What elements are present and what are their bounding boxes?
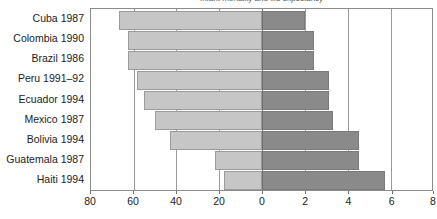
- bar-right: [262, 71, 329, 90]
- bar-left: [144, 91, 262, 110]
- bar-left: [215, 151, 262, 170]
- bar-right: [262, 31, 314, 50]
- tick-mark: [219, 191, 220, 194]
- bar-right: [262, 91, 329, 110]
- category-label: Peru 1991–92: [0, 73, 84, 84]
- tick-mark: [176, 191, 177, 194]
- category-label: Bolivia 1994: [0, 134, 84, 145]
- tick-mark: [90, 191, 91, 194]
- category-label: Guatemala 1987: [0, 154, 84, 165]
- tick-mark: [133, 191, 134, 194]
- bar-right: [262, 151, 359, 170]
- gridline-0: [262, 9, 263, 190]
- tick-label: 40: [159, 195, 193, 208]
- tick-label: 4: [331, 195, 365, 208]
- tick-mark: [305, 191, 306, 194]
- category-label: Brazil 1986: [0, 53, 84, 64]
- bar-right: [262, 171, 385, 190]
- tick-label: 20: [202, 195, 236, 208]
- x-axis: 8060402002468: [90, 191, 433, 213]
- tick-label: 0: [245, 195, 279, 208]
- tick-mark: [392, 191, 393, 194]
- category-label: Ecuador 1994: [0, 94, 84, 105]
- bar-right: [262, 111, 333, 130]
- tick-label: 8: [416, 195, 437, 208]
- tick-label: 60: [116, 195, 150, 208]
- chart-title: Infant mortality and life expectancy: [90, 0, 433, 4]
- bar-left: [170, 131, 262, 150]
- bar-left: [224, 171, 262, 190]
- category-label: Haiti 1994: [0, 174, 84, 185]
- bar-left: [155, 111, 262, 130]
- tick-mark: [348, 191, 349, 194]
- bar-left: [137, 71, 262, 90]
- chart-container: Infant mortality and life expectancy Cub…: [0, 0, 437, 219]
- bar-right: [262, 11, 305, 30]
- tick-label: 6: [375, 195, 409, 208]
- category-label: Colombia 1990: [0, 33, 84, 44]
- bar-left: [128, 51, 262, 70]
- bar-right: [262, 51, 314, 70]
- tick-mark: [433, 191, 434, 194]
- tick-label: 80: [73, 195, 107, 208]
- category-label: Mexico 1987: [0, 114, 84, 125]
- category-axis: Cuba 1987Colombia 1990Brazil 1986Peru 19…: [0, 8, 88, 191]
- plot-inner: [91, 9, 432, 190]
- tick-mark: [262, 191, 263, 194]
- bar-left: [128, 31, 262, 50]
- plot-area: [90, 8, 433, 191]
- bar-left: [119, 11, 262, 30]
- tick-label: 2: [288, 195, 322, 208]
- bar-right: [262, 131, 359, 150]
- category-label: Cuba 1987: [0, 13, 84, 24]
